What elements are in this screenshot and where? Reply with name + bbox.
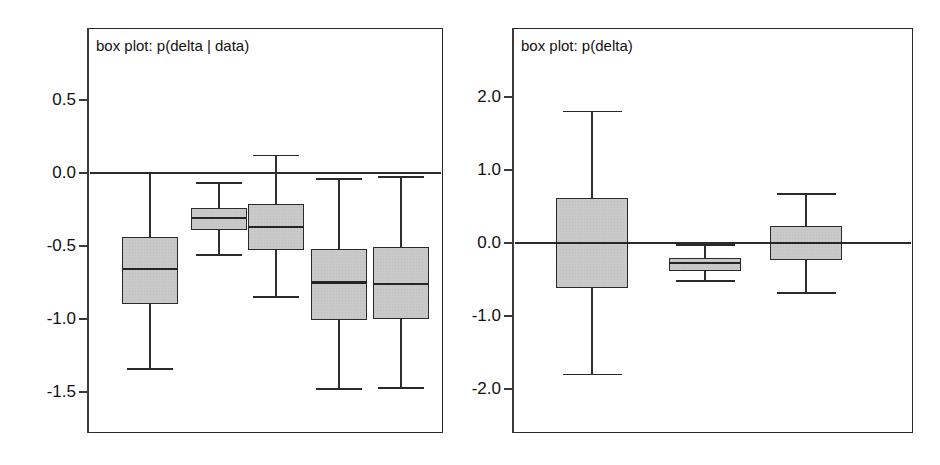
whisker-upper-right-1 [591, 112, 593, 198]
median-left-2 [191, 217, 247, 219]
y-axis-spine-left [87, 28, 89, 433]
median-left-5 [373, 283, 429, 285]
whisker-cap-upper-right-2 [676, 244, 735, 246]
whisker-lower-left-2 [218, 230, 220, 255]
y-tick-left-1 [79, 172, 88, 174]
y-tick-label-left-0: 0.5 [14, 91, 76, 108]
whisker-lower-left-5 [400, 319, 402, 388]
whisker-upper-left-2 [218, 183, 220, 208]
figure-root: box plot: p(delta | data)0.50.0-0.5-1.0-… [0, 0, 940, 465]
whisker-cap-upper-left-1 [127, 172, 173, 174]
y-tick-label-right-4: -2.0 [439, 380, 501, 397]
whisker-lower-right-3 [805, 260, 807, 294]
box-fill-texture [312, 250, 366, 320]
whisker-cap-lower-left-3 [253, 296, 299, 298]
y-tick-left-0 [79, 99, 88, 101]
median-left-1 [122, 268, 178, 270]
y-tick-label-left-2: -0.5 [14, 237, 76, 254]
whisker-cap-lower-left-5 [378, 387, 424, 389]
y-tick-left-4 [79, 391, 88, 393]
y-tick-left-2 [79, 245, 88, 247]
whisker-upper-right-2 [704, 245, 706, 258]
box-left-4 [311, 249, 367, 321]
whisker-upper-right-3 [805, 194, 807, 226]
whisker-cap-upper-right-3 [777, 193, 836, 195]
whisker-cap-upper-left-3 [253, 155, 299, 157]
whisker-upper-left-4 [338, 179, 340, 249]
whisker-lower-right-1 [591, 288, 593, 374]
panel-title-right: box plot: p(delta) [521, 38, 633, 54]
whisker-cap-lower-left-2 [196, 254, 242, 256]
whisker-cap-upper-left-5 [378, 176, 424, 178]
whisker-cap-upper-left-4 [316, 178, 362, 180]
whisker-lower-left-1 [149, 304, 151, 368]
whisker-upper-left-1 [149, 173, 151, 237]
y-tick-label-right-2: 0.0 [439, 234, 501, 251]
box-left-1 [122, 237, 178, 304]
box-fill-texture [123, 238, 177, 303]
median-right-1 [556, 242, 628, 244]
whisker-cap-lower-left-1 [127, 368, 173, 370]
y-tick-label-right-1: 1.0 [439, 161, 501, 178]
whisker-cap-upper-left-2 [196, 182, 242, 184]
y-tick-label-left-1: 0.0 [14, 164, 76, 181]
box-right-2 [669, 258, 741, 270]
whisker-cap-upper-right-1 [563, 111, 622, 113]
y-tick-label-left-4: -1.5 [14, 383, 76, 400]
whisker-cap-lower-right-2 [676, 280, 735, 282]
whisker-upper-left-3 [275, 155, 277, 203]
y-tick-label-right-0: 2.0 [439, 88, 501, 105]
y-tick-left-3 [79, 318, 88, 320]
y-tick-right-0 [504, 96, 513, 98]
y-tick-right-3 [504, 315, 513, 317]
median-right-2 [669, 262, 741, 264]
whisker-cap-lower-left-4 [316, 388, 362, 390]
y-tick-right-2 [504, 242, 513, 244]
whisker-cap-lower-right-1 [563, 374, 622, 376]
panel-title-left: box plot: p(delta | data) [96, 38, 249, 54]
whisker-lower-left-3 [275, 250, 277, 297]
median-left-3 [248, 226, 304, 228]
whisker-upper-left-5 [400, 177, 402, 247]
y-tick-label-right-3: -1.0 [439, 307, 501, 324]
y-tick-right-1 [504, 169, 513, 171]
whisker-cap-lower-right-3 [777, 292, 836, 294]
y-tick-label-left-3: -1.0 [14, 310, 76, 327]
y-axis-spine-right [512, 28, 514, 433]
median-right-3 [770, 242, 842, 244]
median-left-4 [311, 281, 367, 283]
whisker-lower-left-4 [338, 320, 340, 389]
y-tick-right-4 [504, 388, 513, 390]
